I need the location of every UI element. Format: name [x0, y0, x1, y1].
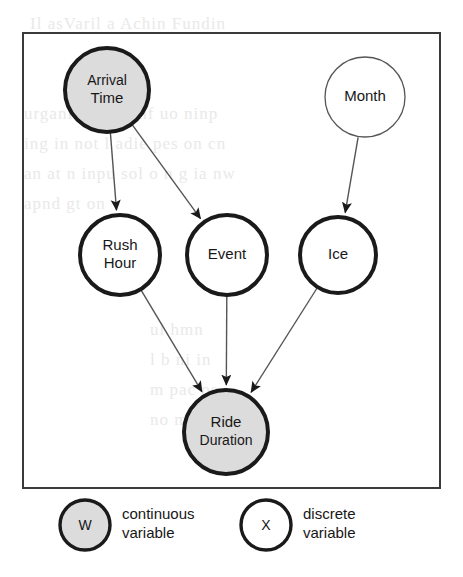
node-rush_hour[interactable]: RushHour: [80, 215, 160, 295]
node-month[interactable]: Month: [325, 57, 405, 137]
nodes-group: ArrivalTimeMonthRushHourEventIceRideDura…: [65, 48, 405, 474]
node-label-arrival_time: Time: [91, 89, 124, 106]
node-label-ride_duration: Duration: [200, 432, 253, 448]
legend-label: variable: [122, 524, 175, 541]
legend-symbol: X: [261, 517, 271, 533]
legend-item-continuous: Wcontinuousvariable: [60, 500, 195, 550]
bayesian-network-diagram: ArrivalTimeMonthRushHourEventIceRideDura…: [0, 0, 463, 577]
edge-event-to-ride_duration: [226, 296, 227, 385]
node-ride_duration[interactable]: RideDuration: [184, 390, 268, 474]
legend: WcontinuousvariableXdiscretevariable: [60, 500, 356, 550]
edge-month-to-ice: [345, 137, 358, 212]
node-arrival_time[interactable]: ArrivalTime: [65, 48, 149, 132]
legend-symbol: W: [78, 517, 92, 533]
edge-arrival_time-to-event: [132, 125, 200, 219]
node-ice[interactable]: Ice: [300, 217, 376, 293]
edge-ice-to-ride_duration: [251, 288, 317, 392]
legend-label: continuous: [122, 505, 195, 522]
node-event[interactable]: Event: [187, 215, 267, 295]
node-label-rush_hour: Rush: [102, 236, 137, 253]
legend-label: discrete: [303, 505, 356, 522]
legend-label: variable: [303, 524, 356, 541]
edge-rush_hour-to-ride_duration: [141, 290, 202, 392]
node-label-event: Event: [208, 245, 247, 262]
node-label-rush_hour: Hour: [104, 254, 137, 271]
legend-item-discrete: Xdiscretevariable: [241, 500, 356, 550]
node-label-ride_duration: Ride: [211, 413, 242, 430]
node-label-ice: Ice: [328, 245, 348, 262]
figure-root: Il asVaril a Achin Fundin urgani nidi vv…: [0, 0, 463, 577]
edge-arrival_time-to-rush_hour: [110, 133, 116, 210]
node-label-month: Month: [344, 87, 386, 104]
node-label-arrival_time: Arrival: [87, 72, 127, 88]
